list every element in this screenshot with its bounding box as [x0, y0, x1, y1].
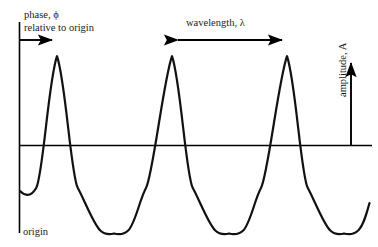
wavelength-label: wavelength, λ	[186, 16, 245, 29]
phase-label: phase, ϕ relative to origin	[24, 8, 94, 34]
amplitude-label: amplitude, A	[336, 43, 349, 97]
phase-label-line2: relative to origin	[24, 21, 94, 34]
wave-diagram-canvas	[0, 0, 378, 247]
origin-label: origin	[23, 225, 48, 238]
wave-diagram-figure: phase, ϕ relative to origin wavelength, …	[0, 0, 378, 247]
phase-label-line1: phase, ϕ	[24, 8, 94, 21]
